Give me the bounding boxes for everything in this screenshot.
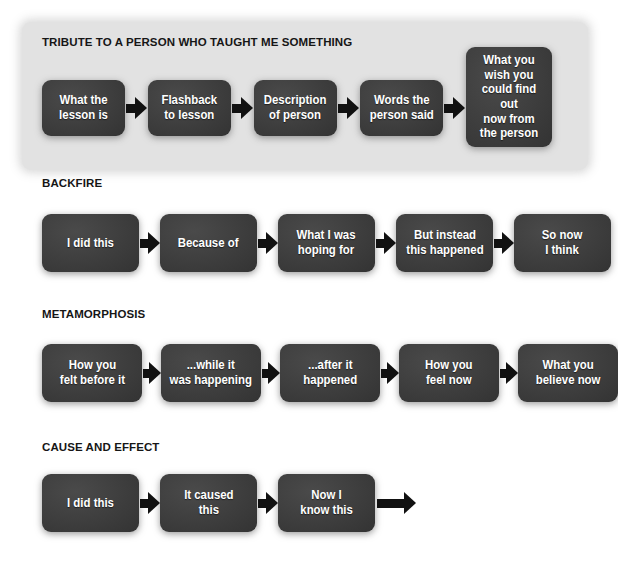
flow-node[interactable]: Words theperson said bbox=[360, 80, 443, 136]
flow-node-line: was happening bbox=[170, 373, 252, 388]
flow-row-tribute: What thelesson isFlashbackto lessonDescr… bbox=[42, 80, 552, 136]
flow-arrow bbox=[261, 362, 280, 384]
flow-node-text: ...after ithappened bbox=[301, 358, 360, 387]
section-label-metamorphosis: METAMORPHOSIS bbox=[42, 308, 145, 320]
flow-node-line: felt before it bbox=[59, 373, 124, 388]
flow-node-line: How you bbox=[59, 358, 124, 373]
flow-row-cause-and-effect: I did thisIt causedthisNow Iknow this bbox=[42, 474, 416, 532]
arrow-head-icon bbox=[506, 362, 518, 384]
flow-node-line: Description bbox=[264, 93, 327, 108]
flow-node-text: But insteadthis happened bbox=[403, 228, 487, 257]
flow-node-line: Flashback bbox=[162, 93, 218, 108]
flow-node-text: Now Iknow this bbox=[298, 488, 355, 517]
flow-arrow-trailing bbox=[375, 492, 416, 514]
flow-node-line: What you bbox=[474, 53, 544, 68]
arrow-head-icon bbox=[135, 97, 147, 119]
flow-node[interactable]: I did this bbox=[42, 214, 139, 272]
flow-node-line: this bbox=[184, 503, 233, 518]
arrow-head-icon bbox=[268, 362, 280, 384]
section-label-tribute: TRIBUTE TO A PERSON WHO TAUGHT ME SOMETH… bbox=[42, 36, 352, 48]
flow-arrow bbox=[375, 232, 396, 254]
flow-node[interactable]: Descriptionof person bbox=[254, 80, 337, 136]
flow-node[interactable]: But insteadthis happened bbox=[396, 214, 493, 272]
flow-arrow bbox=[125, 97, 148, 119]
flow-node-line: How you bbox=[425, 358, 473, 373]
flow-node[interactable]: Flashbackto lesson bbox=[148, 80, 231, 136]
flow-arrow bbox=[231, 97, 254, 119]
flow-arrow bbox=[337, 97, 360, 119]
flow-node-line: But instead bbox=[406, 228, 483, 243]
flow-node[interactable]: ...after ithappened bbox=[280, 344, 380, 402]
flow-node-line: to lesson bbox=[162, 108, 218, 123]
arrow-shaft bbox=[377, 499, 405, 508]
flow-node-line: could find out bbox=[474, 82, 544, 111]
flow-node-text: ...while itwas happening bbox=[166, 358, 256, 387]
flow-node-line: wish you bbox=[474, 68, 544, 83]
arrow-head-icon bbox=[387, 362, 399, 384]
flow-node[interactable]: Now Iknow this bbox=[278, 474, 375, 532]
flow-arrow bbox=[499, 362, 518, 384]
flow-node-line: Words the bbox=[370, 93, 434, 108]
flow-node-line: the person bbox=[474, 126, 544, 141]
flow-node-line: person said bbox=[370, 108, 434, 123]
arrow-head-icon bbox=[502, 232, 514, 254]
flow-node-text: How youfelt before it bbox=[57, 358, 128, 387]
flow-node-line: Now I bbox=[300, 488, 353, 503]
flow-node[interactable]: What I washoping for bbox=[278, 214, 375, 272]
arrow-head-icon bbox=[453, 97, 465, 119]
flow-node[interactable]: Because of bbox=[160, 214, 257, 272]
flow-arrow bbox=[257, 492, 278, 514]
flow-node-text: What I washoping for bbox=[294, 228, 358, 257]
flow-node-line: this happened bbox=[406, 243, 483, 258]
flow-node-line: hoping for bbox=[297, 243, 356, 258]
arrow-head-icon bbox=[148, 232, 160, 254]
flow-node-line: What the bbox=[59, 93, 108, 108]
flow-node-line: What you bbox=[536, 358, 601, 373]
flow-node[interactable]: What youbelieve now bbox=[518, 344, 618, 402]
flow-node[interactable]: It causedthis bbox=[160, 474, 257, 532]
flow-node-line: of person bbox=[264, 108, 327, 123]
arrow-head-icon bbox=[148, 492, 160, 514]
flow-node[interactable]: How youfelt before it bbox=[42, 344, 142, 402]
flow-node-text: How youfeel now bbox=[423, 358, 475, 387]
flow-node-line: What I was bbox=[297, 228, 356, 243]
flow-arrow bbox=[139, 232, 160, 254]
flow-node[interactable]: What youwish youcould find outnow fromth… bbox=[466, 47, 552, 147]
flow-node[interactable]: What thelesson is bbox=[42, 80, 125, 136]
arrow-head-icon bbox=[266, 232, 278, 254]
flow-node-line: ...while it bbox=[170, 358, 252, 373]
flow-node-line: lesson is bbox=[59, 108, 108, 123]
flow-node-line: ...after it bbox=[303, 358, 357, 373]
flow-node-line: I think bbox=[542, 243, 583, 258]
flow-node[interactable]: How youfeel now bbox=[399, 344, 499, 402]
flow-row-backfire: I did thisBecause ofWhat I washoping for… bbox=[42, 214, 611, 272]
flow-node-text: Words theperson said bbox=[367, 93, 437, 122]
flow-node-line: Because of bbox=[178, 236, 239, 251]
flow-node-line: I did this bbox=[67, 236, 114, 251]
flow-row-metamorphosis: How youfelt before it...while itwas happ… bbox=[42, 344, 618, 402]
flow-node-text: I did this bbox=[65, 496, 116, 511]
flow-arrow bbox=[257, 232, 278, 254]
section-label-backfire: BACKFIRE bbox=[42, 177, 102, 189]
arrow-head-icon bbox=[149, 362, 161, 384]
flow-node-text: Because of bbox=[175, 236, 241, 251]
flow-node-line: So now bbox=[542, 228, 583, 243]
section-label-cause-and-effect: CAUSE AND EFFECT bbox=[42, 441, 159, 453]
flow-node-text: Descriptionof person bbox=[261, 93, 329, 122]
flow-arrow bbox=[443, 97, 466, 119]
flow-node-line: believe now bbox=[536, 373, 601, 388]
flow-arrow bbox=[142, 362, 161, 384]
flow-node-text: Flashbackto lesson bbox=[159, 93, 220, 122]
flow-node-text: What youbelieve now bbox=[533, 358, 603, 387]
flow-node-text: What thelesson is bbox=[57, 93, 110, 122]
flow-node[interactable]: I did this bbox=[42, 474, 139, 532]
flow-node[interactable]: So nowI think bbox=[514, 214, 611, 272]
flow-node[interactable]: ...while itwas happening bbox=[161, 344, 261, 402]
arrow-head-icon bbox=[384, 232, 396, 254]
flow-node-text: What youwish youcould find outnow fromth… bbox=[471, 53, 547, 141]
flow-arrow bbox=[139, 492, 160, 514]
flow-node-line: know this bbox=[300, 503, 353, 518]
flow-node-line: feel now bbox=[425, 373, 473, 388]
flow-node-line: now from bbox=[474, 112, 544, 127]
flow-node-line: I did this bbox=[67, 496, 114, 511]
